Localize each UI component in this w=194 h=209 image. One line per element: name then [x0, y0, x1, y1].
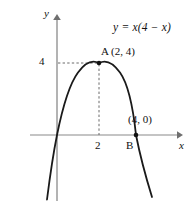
- axis-label-x: x: [179, 140, 184, 151]
- point-a-marker: [97, 61, 102, 66]
- point-a-label: A (2, 4): [101, 46, 135, 57]
- x-axis-arrowhead: [177, 131, 183, 139]
- equation-label: y = x(4 − x): [113, 22, 171, 34]
- parabola-figure: y x y = x(4 − x) 4 2 A (2, 4) B (4, 0): [0, 0, 194, 209]
- axis-label-y: y: [44, 8, 49, 19]
- point-b-marker: [134, 133, 139, 138]
- y-tick-label-4: 4: [39, 56, 45, 67]
- x-tick-label-2: 2: [95, 140, 101, 151]
- point-b-coordinate-label: (4, 0): [128, 114, 152, 125]
- point-b-label: B: [126, 140, 133, 151]
- y-axis-arrowhead: [53, 14, 61, 20]
